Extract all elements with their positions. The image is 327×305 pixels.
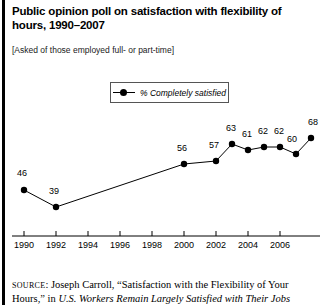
x-axis-tick-label: 1996 [110,240,130,250]
data-point-label: 62 [274,126,284,136]
data-points-group [21,135,314,210]
data-point [245,147,251,153]
x-axis-tick-label: 1998 [142,240,162,250]
chart-title: Public opinion poll on satisfaction with… [12,4,317,32]
data-point-label: 61 [242,129,252,139]
source-publication: U.S. Workers Remain Largely Satisfied wi… [58,293,290,304]
x-axis-tick-label: 1994 [78,240,98,250]
source-note: SOURCE: Joseph Carroll, “Satisfaction wi… [12,279,320,305]
data-point-label: 39 [49,186,59,196]
data-point-label: 46 [17,168,27,178]
x-axis-tick-label: 2000 [174,240,194,250]
data-point [53,204,59,210]
data-point [181,161,187,167]
data-point-label: 56 [177,143,187,153]
data-point [293,151,299,157]
data-labels-group: 46395657636162626068 [17,117,318,196]
source-prefix: SOURCE [12,281,45,290]
legend-line-dot-icon [113,88,135,97]
data-point-label: 63 [226,123,236,133]
x-axis-tick-label: 1990 [14,240,34,250]
data-point-label: 60 [287,134,297,144]
figure-container: Public opinion poll on satisfaction with… [0,0,327,305]
data-point [261,144,267,150]
series-polyline [24,138,311,207]
data-point [213,158,219,164]
x-axis-labels-group: 199019921994199619982000200220042006 [14,240,290,250]
x-axis-tick-label: 2002 [206,240,226,250]
legend-series-label: % Completely satisfied [140,88,226,98]
x-axis-tick-label: 2006 [270,240,290,250]
line-chart-svg: 46395657636162626068 1990199219941996199… [0,108,327,260]
data-point [229,141,235,147]
data-point [277,144,283,150]
plot-area: 46395657636162626068 1990199219941996199… [0,108,327,260]
data-point-label: 68 [308,117,318,127]
chart-legend: % Completely satisfied [110,82,229,103]
data-point-label: 57 [209,140,219,150]
data-point-label: 62 [258,126,268,136]
data-point [21,187,27,193]
legend-content: % Completely satisfied [111,83,228,102]
x-axis-tick-label: 2004 [238,240,258,250]
chart-subtitle: [Asked of those employed full- or part-t… [12,45,312,56]
x-axis-ticks-group [24,231,280,236]
data-point [308,135,314,141]
x-axis-tick-label: 1992 [46,240,66,250]
